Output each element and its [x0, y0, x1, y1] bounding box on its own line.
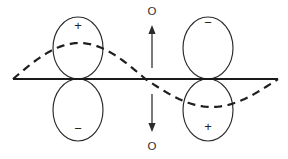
phase-sign-left-lower: − — [74, 121, 82, 136]
displacement-arrow-up — [148, 25, 155, 68]
phase-sign-group: + − − + — [74, 15, 212, 136]
phase-sign-left-upper: + — [74, 18, 82, 33]
orbital-phase-figure: + − − + O O — [0, 0, 288, 159]
label-top-o: O — [148, 5, 157, 17]
phase-sign-right-upper: − — [204, 15, 212, 30]
label-bottom-o: O — [148, 140, 157, 152]
arrow-up-head — [148, 25, 155, 34]
displacement-arrow-down — [148, 94, 155, 132]
phase-sign-right-lower: + — [204, 119, 212, 134]
arrow-down-head — [148, 123, 155, 132]
orbital-diagram-canvas: + − − + O O — [0, 0, 288, 159]
